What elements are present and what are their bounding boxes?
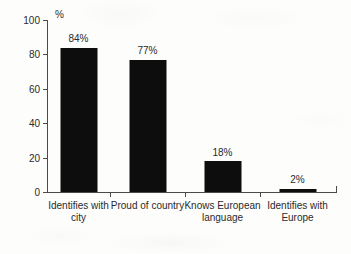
bar-value-3: 18% [212,147,232,158]
y-tick-0 [43,192,47,193]
x-category-label-1: Identifies with city [40,200,118,223]
bar-value-1: 84% [68,33,88,44]
y-tick-label-40: 40 [29,118,40,129]
y-tick-label-100: 100 [23,15,40,26]
bar-chart-figure: % 100 80 60 40 20 0 84% Identifies with … [0,0,351,254]
y-tick-label-20: 20 [29,152,40,163]
y-tick-label-0: 0 [34,187,40,198]
y-tick-label-60: 60 [29,83,40,94]
x-axis-line [47,192,337,193]
bar-proud-of-country [129,60,166,192]
y-axis-unit-label: % [55,9,64,20]
bar-identifies-with-city [60,48,97,193]
bar-group-2: 77% Proud of country [110,20,185,192]
bar-value-2: 77% [137,45,157,56]
y-tick-label-80: 80 [29,49,40,60]
bar-group-4: 2% Identifies with Europe [260,20,335,192]
bar-knows-european-language [204,161,241,192]
x-category-label-2: Proud of country [109,200,187,212]
x-category-label-3: Knows European language [184,200,262,223]
bar-group-3: 18% Knows European language [185,20,260,192]
bar-identifies-with-europe [279,189,316,193]
x-tick-boundary-3 [260,193,261,197]
x-category-label-4: Identifies with Europe [259,200,337,223]
plot-area: % 100 80 60 40 20 0 84% Identifies with … [47,20,337,192]
x-tick-boundary-1 [110,193,111,197]
bar-value-4: 2% [290,174,304,185]
x-tick-boundary-2 [185,193,186,197]
x-axis-end-tick [336,186,337,193]
bar-group-1: 84% Identifies with city [47,20,110,192]
